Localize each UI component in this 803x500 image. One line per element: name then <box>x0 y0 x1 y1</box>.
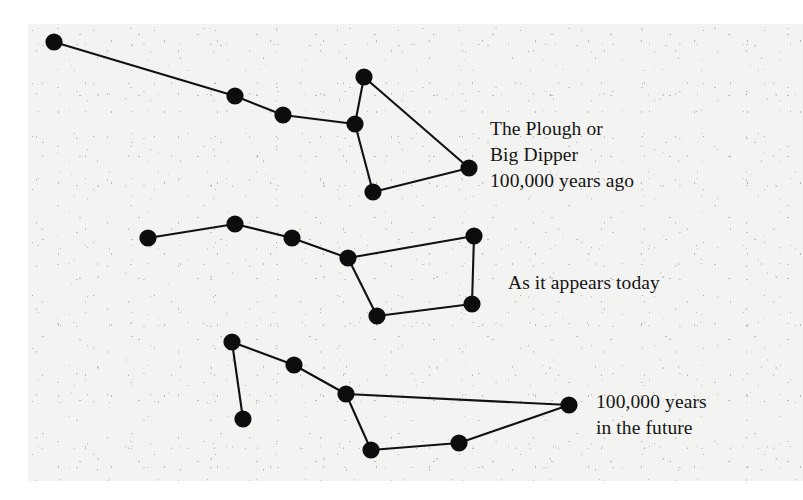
star-marker <box>364 183 381 200</box>
constellation-line <box>54 42 235 96</box>
constellation-line <box>371 443 459 450</box>
star-marker <box>465 227 482 244</box>
constellation-line <box>364 77 469 168</box>
star-marker <box>274 106 291 123</box>
constellation-lines-layer <box>54 42 569 450</box>
constellation-line <box>232 342 294 365</box>
constellation-line <box>355 124 373 192</box>
star-marker <box>560 396 577 413</box>
constellation-line <box>472 236 474 304</box>
star-marker <box>45 33 62 50</box>
star-marker <box>285 356 302 373</box>
constellation-line <box>232 342 243 419</box>
star-marker <box>139 229 156 246</box>
star-marker <box>368 307 385 324</box>
constellation-line <box>348 258 377 316</box>
constellation-line <box>373 168 469 192</box>
star-marker <box>234 410 251 427</box>
star-marker <box>463 295 480 312</box>
constellation-line <box>346 394 371 450</box>
constellation-line <box>294 365 346 394</box>
constellation-line <box>459 405 569 443</box>
star-marker <box>339 249 356 266</box>
star-marker <box>346 115 363 132</box>
constellation-line <box>148 224 235 238</box>
star-marker <box>362 441 379 458</box>
star-marker <box>450 434 467 451</box>
constellation-line <box>348 236 474 258</box>
caption-present-day: As it appears today <box>508 270 660 296</box>
star-marker <box>355 68 372 85</box>
star-marker <box>283 229 300 246</box>
constellation-line <box>377 304 472 316</box>
constellation-line <box>235 224 292 238</box>
constellation-line <box>283 115 355 124</box>
star-marker <box>460 159 477 176</box>
star-marker <box>223 333 240 350</box>
constellation-figure: The Plough or Big Dipper 100,000 years a… <box>0 0 803 500</box>
caption-100000-years-ago: The Plough or Big Dipper 100,000 years a… <box>490 116 634 194</box>
constellation-line <box>292 238 348 258</box>
star-marker <box>337 385 354 402</box>
star-marker <box>226 87 243 104</box>
caption-100000-years-in-the-future: 100,000 years in the future <box>596 389 707 441</box>
constellation-line <box>346 394 569 405</box>
star-marker <box>226 215 243 232</box>
